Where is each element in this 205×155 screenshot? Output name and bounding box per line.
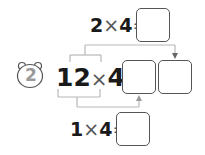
result-tens-box[interactable] [122, 60, 156, 94]
times-sign: × [83, 118, 99, 140]
result-ones-box[interactable] [158, 60, 192, 94]
bottom-right-operand: 4 [99, 118, 112, 140]
top-right-operand: 4 [119, 14, 132, 36]
main-left-operand: 12 [56, 63, 91, 92]
times-sign: × [103, 14, 119, 36]
bottom-answer-box[interactable] [116, 112, 150, 146]
problem-number: 2 [22, 65, 40, 85]
bottom-left-operand: 1 [70, 118, 83, 140]
top-answer-box[interactable] [136, 8, 170, 42]
times-sign: × [91, 67, 108, 91]
top-bracket [70, 45, 175, 62]
arrow-up-icon [136, 95, 142, 101]
top-left-operand: 2 [90, 14, 103, 36]
arrow-down-icon [172, 53, 178, 59]
